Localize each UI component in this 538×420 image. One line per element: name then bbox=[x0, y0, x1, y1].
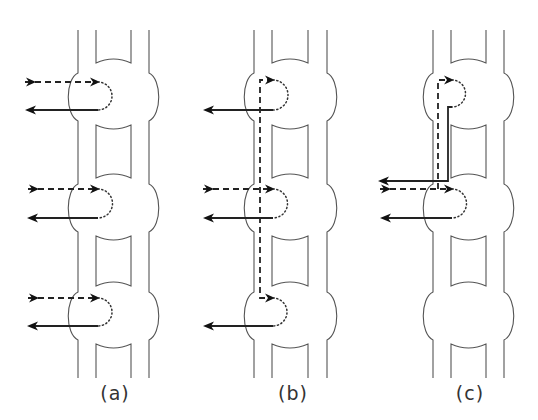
outer-wall-left bbox=[423, 30, 433, 378]
dotted-loop bbox=[98, 298, 112, 326]
channel-window bbox=[272, 236, 308, 286]
channel-window bbox=[272, 125, 308, 178]
channel-window bbox=[96, 236, 131, 286]
panel-a bbox=[25, 30, 159, 378]
return-path-solid bbox=[382, 107, 452, 181]
channel-bottom bbox=[272, 344, 308, 378]
channel-window bbox=[451, 236, 486, 286]
panel-b bbox=[203, 30, 337, 378]
dotted-loop bbox=[273, 80, 288, 110]
outer-wall-right bbox=[504, 30, 514, 378]
dotted-loop bbox=[273, 189, 288, 218]
dotted-loop bbox=[273, 298, 287, 326]
channel-bottom bbox=[451, 344, 486, 378]
channel-bottom bbox=[96, 344, 131, 378]
panel-label-c: (c) bbox=[440, 382, 500, 404]
channel-top bbox=[451, 30, 486, 63]
diagram-canvas bbox=[0, 0, 538, 420]
dotted-loop bbox=[452, 189, 467, 218]
dotted-loop bbox=[98, 189, 113, 218]
dotted-loop bbox=[98, 82, 112, 110]
outer-wall-right bbox=[327, 30, 337, 378]
channel-top bbox=[96, 30, 131, 63]
channel-window bbox=[96, 125, 131, 178]
branch-up-dashed bbox=[438, 80, 452, 189]
channel-window bbox=[451, 125, 486, 178]
outer-wall-right bbox=[149, 30, 159, 378]
panel-c bbox=[378, 30, 514, 378]
dotted-loop bbox=[452, 80, 466, 107]
panel-label-a: (a) bbox=[85, 382, 145, 404]
panel-label-b: (b) bbox=[263, 382, 323, 404]
channel-top bbox=[272, 30, 308, 63]
